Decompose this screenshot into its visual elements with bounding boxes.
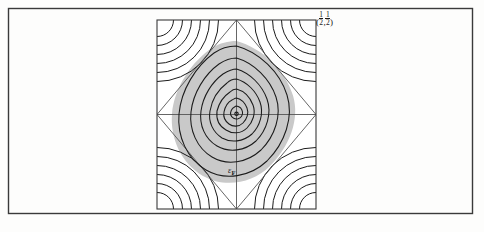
- zone-corner-denominator-x: 2: [319, 19, 324, 26]
- fermi-energy-subscript: F: [231, 169, 235, 176]
- fermi-surface-contour-plot: [0, 0, 484, 232]
- zone-corner-fraction-x: 12: [319, 11, 324, 26]
- zone-corner-denominator-y: 2: [325, 19, 330, 26]
- zone-corner-kpoint-label: (12,12): [316, 11, 333, 27]
- figure-container: (12,12) εF: [0, 0, 484, 232]
- zone-corner-fraction-y: 12: [325, 11, 330, 26]
- fermi-energy-label: εF: [228, 167, 235, 177]
- gamma-point-dot: [236, 113, 237, 114]
